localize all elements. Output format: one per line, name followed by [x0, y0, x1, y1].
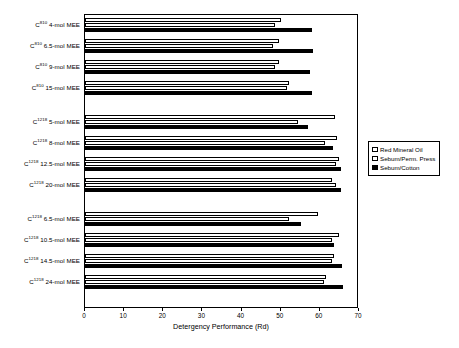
bar — [85, 28, 312, 32]
bar — [85, 167, 341, 171]
x-tick-label: 50 — [276, 312, 283, 320]
category-label: C810 15-mol MEE — [32, 84, 80, 91]
bar — [85, 222, 301, 226]
bar — [85, 141, 325, 145]
bar — [85, 91, 312, 95]
x-tick-mark — [84, 308, 85, 311]
bar — [85, 81, 289, 85]
plot-area — [84, 14, 358, 308]
bar — [85, 115, 335, 119]
x-tick-mark — [280, 308, 281, 311]
x-tick-mark — [201, 308, 202, 311]
bar — [85, 254, 334, 258]
bar — [85, 285, 343, 289]
bar — [85, 70, 310, 74]
x-tick-mark — [162, 308, 163, 311]
category-axis-labels: C810 4-mol MEEC810 6.5-mol MEEC810 9-mol… — [0, 14, 82, 308]
category-label: C1218 6.5-mol MEE — [27, 215, 80, 222]
bar — [85, 146, 333, 150]
bar — [85, 120, 298, 124]
legend-label: Sebum/Cotton — [380, 164, 420, 171]
legend-item: Sebum/Cotton — [372, 163, 435, 172]
detergency-performance-bar-chart: C810 4-mol MEEC810 6.5-mol MEEC810 9-mol… — [0, 0, 459, 348]
bar — [85, 217, 289, 221]
x-tick-mark — [319, 308, 320, 311]
x-tick-label: 70 — [354, 312, 361, 320]
bar — [85, 157, 339, 161]
legend-item: Red Mineral Oil — [372, 145, 435, 154]
x-tick-label: 40 — [237, 312, 244, 320]
legend-item: Sebum/Perm. Press — [372, 154, 435, 163]
x-tick-mark — [123, 308, 124, 311]
category-label: C1218 5-mol MEE — [33, 118, 80, 125]
bar — [85, 259, 332, 263]
x-tick-label: 10 — [120, 312, 127, 320]
bar — [85, 264, 342, 268]
x-tick-label: 0 — [82, 312, 86, 320]
bar — [85, 23, 275, 27]
legend-swatch-icon — [372, 165, 378, 171]
x-tick-label: 30 — [198, 312, 205, 320]
bar — [85, 178, 332, 182]
bar — [85, 238, 332, 242]
x-tick-label: 20 — [159, 312, 166, 320]
category-label: C1218 10.5-mol MEE — [24, 236, 80, 243]
bar — [85, 183, 336, 187]
chart-legend: Red Mineral OilSebum/Perm. PressSebum/Co… — [368, 141, 440, 176]
bars-layer — [85, 15, 357, 307]
category-label: C1218 24-mol MEE — [29, 278, 80, 285]
bar — [85, 44, 273, 48]
x-tick-label: 60 — [315, 312, 322, 320]
bar — [85, 188, 341, 192]
bar — [85, 39, 279, 43]
legend-swatch-icon — [372, 147, 378, 153]
bar — [85, 233, 339, 237]
x-axis-title: Detergency Performance (Rd) — [84, 322, 358, 331]
bar — [85, 243, 334, 247]
category-label: C1218 12.5-mol MEE — [24, 160, 80, 167]
legend-swatch-icon — [372, 156, 378, 162]
legend-label: Sebum/Perm. Press — [380, 155, 435, 162]
bar — [85, 86, 287, 90]
bar — [85, 280, 324, 284]
category-label: C810 9-mol MEE — [35, 63, 80, 70]
category-label: C810 6.5-mol MEE — [30, 42, 80, 49]
bar — [85, 65, 275, 69]
bar — [85, 162, 336, 166]
category-label: C810 4-mol MEE — [35, 21, 80, 28]
category-label: C1218 20-mol MEE — [29, 181, 80, 188]
bar — [85, 136, 337, 140]
category-label: C1218 8-mol MEE — [33, 139, 80, 146]
category-label: C1218 14.5-mol MEE — [24, 257, 80, 264]
bar — [85, 125, 308, 129]
x-tick-mark — [358, 308, 359, 311]
x-tick-mark — [241, 308, 242, 311]
bar — [85, 212, 318, 216]
bar — [85, 275, 326, 279]
bar — [85, 60, 279, 64]
bar — [85, 49, 313, 53]
legend-label: Red Mineral Oil — [380, 146, 423, 153]
bar — [85, 18, 281, 22]
